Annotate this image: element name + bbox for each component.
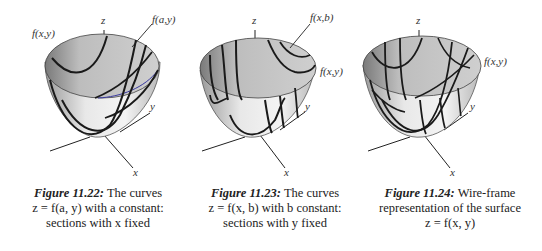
caption-text: Wire-frame bbox=[458, 186, 516, 200]
caption-figure-11-23: Figure 11.23: The curves z = f(x, b) wit… bbox=[185, 186, 365, 231]
paraboloid-wire-frame bbox=[360, 0, 540, 180]
x-axis-label: x bbox=[284, 166, 289, 178]
figure-label: Figure 11.23: bbox=[211, 186, 281, 200]
paraboloid-sections-x-fixed bbox=[0, 0, 180, 180]
figure-11-24: z f(x,y) y x bbox=[360, 0, 540, 180]
z-axis-label: z bbox=[101, 14, 105, 26]
figure-label: Figure 11.22: bbox=[34, 186, 104, 200]
y-axis-label: y bbox=[470, 100, 475, 112]
curve-label: f(a,y) bbox=[152, 13, 176, 25]
curve-label: f(x,b) bbox=[310, 11, 334, 23]
surface-label: f(x,y) bbox=[32, 27, 55, 39]
caption-line: sections with x fixed bbox=[8, 216, 188, 231]
z-axis-label: z bbox=[252, 14, 256, 26]
caption-line: representation of the surface bbox=[360, 201, 540, 216]
surface-label: f(x,y) bbox=[484, 55, 507, 67]
y-axis-label: y bbox=[150, 100, 155, 112]
x-axis-label: x bbox=[133, 166, 138, 178]
caption-line: z = f(a, y) with a constant: bbox=[8, 201, 188, 216]
z-axis-label: z bbox=[416, 14, 420, 26]
caption-figure-11-22: Figure 11.22: The curves z = f(a, y) wit… bbox=[8, 186, 188, 231]
caption-text: The curves bbox=[107, 186, 162, 200]
caption-line: z = f(x, y) bbox=[360, 216, 540, 231]
figure-11-23: z f(x,b) f(x,y) y x bbox=[180, 0, 360, 180]
surface-label: f(x,y) bbox=[320, 65, 343, 77]
y-axis-label: y bbox=[305, 100, 310, 112]
caption-line: sections with y fixed bbox=[185, 216, 365, 231]
figure-11-22: z f(x,y) f(a,y) y x bbox=[0, 0, 180, 180]
figure-label: Figure 11.24: bbox=[385, 186, 455, 200]
caption-line: z = f(x, b) with b constant: bbox=[185, 201, 365, 216]
x-axis-label: x bbox=[450, 166, 455, 178]
caption-text: The curves bbox=[284, 186, 339, 200]
paraboloid-sections-y-fixed bbox=[180, 0, 360, 180]
caption-figure-11-24: Figure 11.24: Wire-frame representation … bbox=[360, 186, 540, 231]
